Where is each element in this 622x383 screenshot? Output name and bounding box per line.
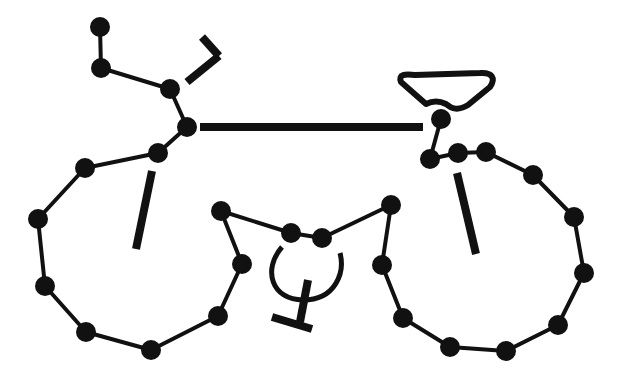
dot-node-c2 — [281, 223, 301, 243]
dot-node-r1 — [372, 255, 392, 275]
dot-node-c1 — [211, 201, 231, 221]
dot-node-c3 — [312, 228, 332, 248]
dot-node-r10 — [448, 143, 468, 163]
dot-node-h3 — [160, 79, 180, 99]
dot-node-r11 — [420, 149, 440, 169]
dot-node-r4 — [496, 341, 516, 361]
dot-node-r8 — [523, 165, 543, 185]
dot-node-l1 — [75, 158, 95, 178]
dot-node-l7 — [232, 254, 252, 274]
dot-node-r5 — [548, 315, 568, 335]
dot-node-h5 — [148, 143, 168, 163]
dot-node-l6 — [208, 306, 228, 326]
dot-node-r2 — [393, 308, 413, 328]
dot-node-l5 — [141, 340, 161, 360]
dot-node-c4 — [381, 195, 401, 215]
dot-node-r6 — [574, 263, 594, 283]
dot-node-s1 — [431, 109, 451, 129]
dot-node-l2 — [28, 209, 48, 229]
dot-node-r7 — [564, 207, 584, 227]
dot-node-h1 — [90, 17, 110, 37]
dot-node-h2 — [91, 58, 111, 78]
bicycle-diagram — [0, 0, 622, 383]
dot-node-r3 — [440, 337, 460, 357]
dot-node-l3 — [35, 276, 55, 296]
dot-node-h4 — [177, 117, 197, 137]
dot-node-r9 — [476, 142, 496, 162]
dot-node-l4 — [76, 322, 96, 342]
